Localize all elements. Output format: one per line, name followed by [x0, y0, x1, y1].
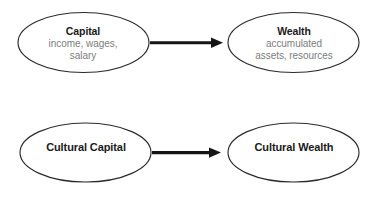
node-title-cultural-capital: Cultural Capital	[46, 141, 126, 153]
node-label-capital: Capital income, wages, salary	[18, 26, 148, 61]
arrow-capital-to-wealth	[150, 38, 223, 48]
node-label-cultural-capital: Cultural Capital	[20, 137, 152, 155]
node-title-cultural-wealth: Cultural Wealth	[255, 141, 334, 153]
arrow-cultural-capital-to-cultural-wealth	[152, 147, 221, 157]
arrow-head-icon	[211, 38, 223, 48]
node-subtitle-capital-line-2: salary	[18, 50, 148, 61]
node-title-capital: Capital	[18, 26, 148, 38]
node-label-wealth: Wealth accumulated assets, resources	[228, 26, 360, 61]
node-subtitle-wealth-line-1: accumulated	[228, 38, 360, 49]
arrow-head-icon	[209, 147, 221, 157]
node-label-cultural-wealth: Cultural Wealth	[228, 137, 360, 155]
node-title-wealth: Wealth	[228, 26, 360, 38]
diagram-canvas: Capital income, wages, salary Wealth acc…	[0, 0, 376, 197]
node-subtitle-capital-line-1: income, wages,	[18, 38, 148, 49]
node-subtitle-wealth-line-2: assets, resources	[228, 50, 360, 61]
